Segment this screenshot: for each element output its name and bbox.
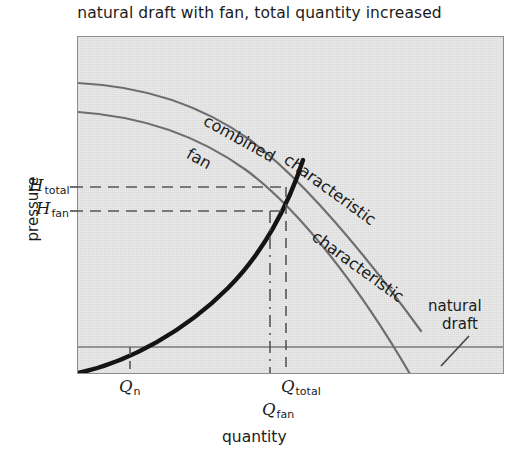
h-fan-subscript: fan <box>51 207 69 220</box>
q-total-subscript: total <box>296 385 321 398</box>
h-total-symbol: H <box>29 176 43 195</box>
chart-overlay <box>0 0 519 456</box>
x-marker-q-n: Qn <box>119 377 141 398</box>
h-total-subscript: total <box>44 184 69 197</box>
q-total-symbol: Q <box>281 377 295 396</box>
figure-container: natural draft with fan, total quantity i… <box>0 0 519 456</box>
x-marker-q-total: Qtotal <box>281 377 321 398</box>
x-marker-q-fan: Qfan <box>262 400 294 421</box>
curve-label-natural-draft: naturaldraft <box>428 297 482 333</box>
q-n-subscript: n <box>134 385 141 398</box>
h-fan-symbol: H <box>36 199 50 218</box>
q-n-symbol: Q <box>119 377 133 396</box>
q-fan-subscript: fan <box>277 408 295 421</box>
natural-draft-line1: natural <box>428 297 482 315</box>
y-marker-h-fan: Hfan <box>36 199 69 220</box>
q-fan-symbol: Q <box>262 400 276 419</box>
x-axis-label: quantity <box>222 428 287 446</box>
natural-draft-line2: draft <box>428 315 482 333</box>
natural-draft-leader-line <box>441 336 469 366</box>
y-marker-h-total: Htotal <box>29 176 70 197</box>
